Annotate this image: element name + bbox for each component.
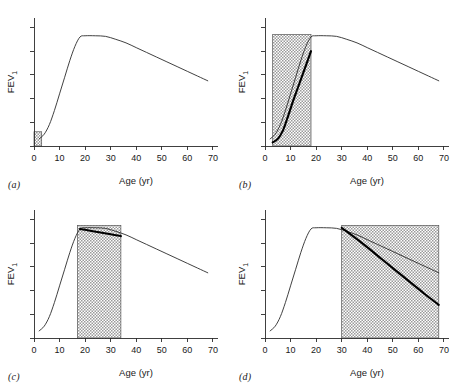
x-tick-label: 40 [362,153,372,163]
panel-c-label: (c) [8,371,20,382]
panel-a-plot: 010203040506070 Age (yr)FEV1 [0,0,231,192]
x-tick-label: 70 [208,345,218,355]
x-tick-label: 50 [388,345,398,355]
x-tick-label: 0 [31,153,36,163]
x-tick-label: 30 [106,345,116,355]
panel-c-annotations [77,225,120,338]
x-tick-label: 20 [80,153,90,163]
x-tick-label: 40 [131,153,141,163]
series-line-normal [39,228,208,331]
x-tick-label: 10 [55,345,65,355]
y-axis-title: FEV1 [5,71,18,93]
panel-d-annotations [342,225,439,338]
panel-b: 010203040506070 Age (yr)FEV1 (b) [231,0,462,192]
panel-b-plot: 010203040506070 Age (yr)FEV1 [231,0,462,192]
panel-c: 010203040506070 Age (yr)FEV1 (c) [0,192,231,384]
panel-c-series [39,228,208,331]
y-axis-title: FEV1 [236,71,249,93]
x-tick-label: 70 [208,153,218,163]
panel-c-axis-lines [34,210,218,338]
panel-c-axes: 010203040506070 [30,210,218,355]
x-tick-label: 60 [182,153,192,163]
panel-a-axes: 010203040506070 [30,18,218,163]
x-axis-title: Age (yr) [350,367,384,378]
early-life-window [34,132,42,146]
x-tick-label: 0 [31,345,36,355]
x-tick-label: 50 [157,345,167,355]
x-tick-label: 60 [413,153,423,163]
x-tick-label: 70 [439,345,449,355]
panel-a-series [39,36,208,139]
panel-a-axis-titles: Age (yr)FEV1 [5,71,153,186]
panel-a-annotations [34,132,42,146]
panel-c-plot: 010203040506070 Age (yr)FEV1 [0,192,231,384]
panel-a: 010203040506070 Age (yr)FEV1 (a) [0,0,231,192]
x-tick-label: 10 [286,153,296,163]
x-tick-label: 50 [157,153,167,163]
short-plateau-window [77,225,120,338]
panel-a-label: (a) [8,179,20,190]
panel-d-label: (d) [239,371,251,382]
x-tick-label: 10 [286,345,296,355]
panel-a-axis-lines [34,18,218,146]
x-tick-label: 0 [262,345,267,355]
x-tick-label: 60 [182,345,192,355]
y-axis-title: FEV1 [236,263,249,285]
x-tick-label: 40 [362,345,372,355]
x-tick-label: 20 [311,153,321,163]
x-tick-label: 70 [439,153,449,163]
x-tick-label: 40 [131,345,141,355]
panel-b-label: (b) [239,179,251,190]
x-tick-label: 30 [106,153,116,163]
fev1-trajectory-figure: 010203040506070 Age (yr)FEV1 (a) 0102030… [0,0,462,385]
x-tick-label: 20 [311,345,321,355]
x-tick-label: 20 [80,345,90,355]
series-line-normal [39,36,208,139]
panel-d-plot: 010203040506070 Age (yr)FEV1 [231,192,462,384]
x-tick-label: 50 [388,153,398,163]
panel-d: 010203040506070 Age (yr)FEV1 (d) [231,192,462,384]
x-axis-title: Age (yr) [119,175,153,186]
x-tick-label: 30 [337,153,347,163]
x-tick-label: 10 [55,153,65,163]
x-tick-label: 0 [262,153,267,163]
accelerated-decline-window [342,225,439,338]
x-axis-title: Age (yr) [119,367,153,378]
x-axis-title: Age (yr) [350,175,384,186]
y-axis-title: FEV1 [5,263,18,285]
x-tick-label: 30 [337,345,347,355]
x-tick-label: 60 [413,345,423,355]
